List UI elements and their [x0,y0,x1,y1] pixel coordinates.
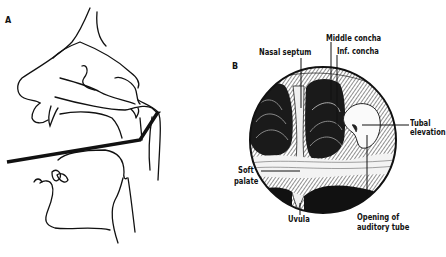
label-nasal-septum: Nasal septum [259,48,311,57]
label-inf-concha: Inf. concha [337,47,379,56]
label-middle-concha: Middle concha [326,34,381,43]
label-opening-1: Opening of [357,213,399,222]
panel-b-label: B [232,62,238,71]
label-uvula: Uvula [288,215,310,224]
label-tubal-elevation-2: elevation [410,128,446,137]
mirror-handle [7,112,158,162]
label-soft-palate-1: Soft [238,166,254,175]
label-opening-2: auditory tube [357,223,409,232]
label-soft-palate-2: palate [234,177,258,186]
panel-a-label: A [5,16,11,25]
label-tubal-elevation-1: Tubal [410,119,431,128]
head-sagittal-view [18,8,161,243]
